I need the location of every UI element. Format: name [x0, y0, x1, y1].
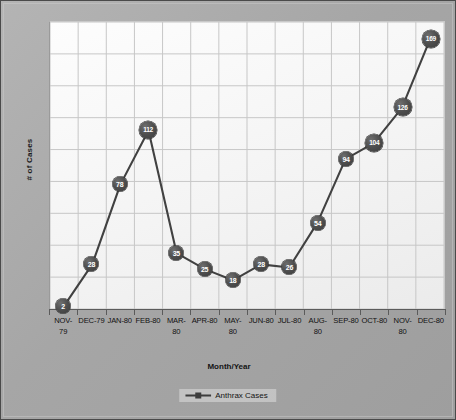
data-point-jan-80: 78 — [112, 177, 127, 192]
x-axis-label-line1: MAR- — [167, 316, 186, 325]
x-axis-tick — [388, 310, 389, 315]
x-axis-label-line1: NOV- — [394, 316, 412, 325]
x-axis-tick — [332, 310, 333, 315]
chart-frame: # of Cases 22878112352518282654941041261… — [0, 0, 456, 420]
x-axis-tick — [190, 310, 191, 315]
data-point-may-80: 18 — [225, 273, 240, 288]
x-axis-tick — [445, 310, 446, 315]
x-axis-label-line1: MAY- — [224, 316, 241, 325]
x-axis-tick — [275, 310, 276, 315]
y-axis-title: # of Cases — [25, 100, 34, 220]
x-axis-label-line2: 79 — [59, 327, 67, 336]
data-point-sep-80: 94 — [339, 151, 354, 166]
x-axis-tick — [304, 310, 305, 315]
x-axis-tick — [134, 310, 135, 315]
data-point-oct-80: 104 — [365, 134, 383, 152]
x-axis-tick — [417, 310, 418, 315]
x-axis-label-line1: AUG- — [309, 316, 327, 325]
x-axis-label-dec-80: DEC-80 — [411, 316, 451, 327]
data-point-aug-80: 54 — [310, 215, 325, 230]
data-point-nov-80: 126 — [394, 98, 412, 116]
data-point-dec-80: 169 — [422, 30, 440, 48]
chart-legend: Anthrax Cases — [179, 389, 276, 402]
x-axis-label-line2: 80 — [172, 327, 180, 336]
data-point-mar-80: 35 — [169, 246, 184, 261]
x-axis-tick — [247, 310, 248, 315]
legend-item-label: Anthrax Cases — [215, 391, 267, 400]
data-point-apr-80: 25 — [197, 262, 212, 277]
legend-line-marker-icon — [185, 391, 211, 400]
data-point-dec-79: 28 — [84, 257, 99, 272]
data-point-jul-80: 26 — [282, 260, 297, 275]
x-axis-label-line1: DEC-80 — [418, 316, 444, 325]
data-point-jun-80: 28 — [254, 257, 269, 272]
plot-area — [49, 21, 445, 310]
x-axis-tick — [77, 310, 78, 315]
data-point-nov-79: 2 — [56, 298, 71, 313]
x-axis-label-line2: 80 — [398, 327, 406, 336]
x-axis-label-line2: 80 — [314, 327, 322, 336]
x-axis-tick — [49, 310, 50, 315]
x-axis-tick — [162, 310, 163, 315]
x-axis-tick — [106, 310, 107, 315]
x-axis-tick — [360, 310, 361, 315]
x-axis-title: Month/Year — [1, 362, 456, 371]
x-axis-label-line1: NOV- — [54, 316, 72, 325]
x-axis-tick — [219, 310, 220, 315]
data-point-feb-80: 112 — [139, 121, 157, 139]
series-line-anthrax-cases — [50, 22, 444, 310]
x-axis-label-line2: 80 — [229, 327, 237, 336]
